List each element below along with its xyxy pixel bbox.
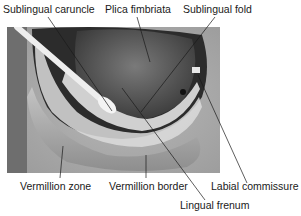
label-sublingual-caruncle: Sublingual caruncle bbox=[3, 3, 95, 15]
leader-sublingual-fold bbox=[141, 17, 215, 112]
label-labial-commissure: Labial commissure bbox=[211, 180, 299, 192]
label-vermillion-border: Vermillion border bbox=[109, 180, 188, 192]
label-sublingual-fold: Sublingual fold bbox=[183, 3, 252, 15]
leader-plica-fimbriata bbox=[137, 17, 150, 62]
label-plica-fimbriata: Plica fimbriata bbox=[105, 3, 171, 15]
leader-vermillion-zone bbox=[60, 146, 63, 178]
label-vermillion-zone: Vermillion zone bbox=[20, 180, 91, 192]
leader-labial-commissure bbox=[198, 75, 247, 183]
leader-sublingual-caruncle bbox=[48, 17, 112, 111]
label-lingual-frenum: Lingual frenum bbox=[180, 199, 249, 211]
